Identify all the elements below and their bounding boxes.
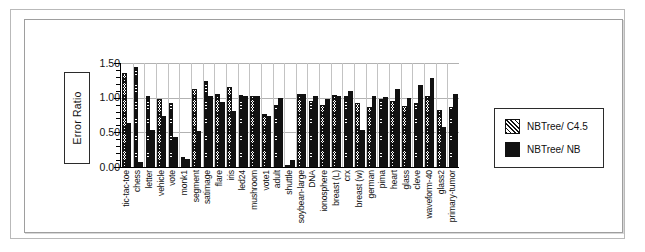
x-axis-label: breast (L) <box>330 169 342 227</box>
legend-label-nbtree-c45: NBTree/ C4.5 <box>527 121 588 132</box>
bar-group <box>249 63 261 167</box>
bar-nb <box>220 102 225 167</box>
bar-nb <box>453 94 458 167</box>
x-axis-label-text: led24 <box>237 170 247 191</box>
bar-group <box>319 63 331 167</box>
x-axis-label: letter <box>143 169 155 227</box>
bar-series-container <box>121 63 459 167</box>
bar-group <box>296 63 308 167</box>
bar-nb <box>348 91 353 167</box>
x-axis-labels: tic-tac-toechesslettervehiclevotemonk1se… <box>120 169 458 227</box>
y-tick-label-3: 1.50 <box>38 57 120 69</box>
bar-nb <box>138 162 143 167</box>
x-axis-label-text: cleve <box>412 170 422 190</box>
bar-chart: Error Ratio 1.50 1.00 0.50 0.00 tic-tac-… <box>28 22 618 228</box>
x-axis-label: satimage <box>202 169 214 227</box>
bar-nb <box>243 96 248 167</box>
x-axis-label: breast (w) <box>353 169 365 227</box>
bar-group <box>377 63 389 167</box>
y-axis: 1.50 1.00 0.50 0.00 <box>28 22 120 168</box>
plot-area <box>120 63 459 168</box>
x-axis-label-text: waveform-40 <box>424 170 434 219</box>
x-axis-label-text: letter <box>144 170 154 189</box>
x-axis-label-text: chess <box>132 170 142 192</box>
x-axis-label: adult <box>272 169 284 227</box>
bar-group <box>226 63 238 167</box>
x-axis-label: mushroom <box>248 169 260 227</box>
bar-nb <box>418 85 423 167</box>
bar-nb <box>127 123 132 167</box>
bar-nb <box>197 131 202 167</box>
bar-nb <box>150 130 155 167</box>
x-axis-label-text: tic-tac-toe <box>121 170 131 207</box>
bar-group <box>331 63 343 167</box>
bar-group <box>308 63 320 167</box>
x-axis-label: vehicle <box>155 169 167 227</box>
legend-swatch-hatched-icon <box>505 119 520 134</box>
bar-nb <box>442 127 447 167</box>
bar-nb <box>395 89 400 167</box>
x-axis-label: led24 <box>237 169 249 227</box>
bar-group <box>273 63 285 167</box>
x-axis-label-text: flare <box>214 170 224 186</box>
bar-group <box>412 63 424 167</box>
x-axis-label: shuttle <box>283 169 295 227</box>
x-axis-label: chess <box>132 169 144 227</box>
bar-nb <box>325 99 330 167</box>
bar-group <box>214 63 226 167</box>
x-axis-label: monk1 <box>178 169 190 227</box>
x-axis-label-text: pima <box>377 170 387 188</box>
x-axis-label-text: glass <box>401 170 411 190</box>
x-axis-label: soybean-large <box>295 169 307 227</box>
x-axis-label: DNA <box>307 169 319 227</box>
y-tick-label-1: 0.50 <box>38 126 120 138</box>
x-axis-label: cleve <box>411 169 423 227</box>
x-axis-label: heart <box>388 169 400 227</box>
x-axis-label: ionosphere <box>318 169 330 227</box>
bar-group <box>203 63 215 167</box>
bar-group <box>238 63 250 167</box>
y-tick-label-0: 0.00 <box>38 161 120 173</box>
x-axis-label-text: german <box>366 170 376 199</box>
x-axis-label-text: vote <box>167 170 177 186</box>
bar-nb <box>173 137 178 167</box>
legend-swatch-solid-icon <box>505 142 520 157</box>
x-axis-label-text: vehicle <box>156 170 166 196</box>
bar-nb <box>313 96 318 167</box>
bar-group <box>354 63 366 167</box>
legend: NBTree/ C4.5 NBTree/ NB <box>494 108 604 168</box>
x-axis-label-text: glass2 <box>436 170 446 194</box>
bar-nb <box>407 98 412 167</box>
x-axis-label-text: adult <box>272 170 282 188</box>
bar-nb <box>185 159 190 167</box>
bar-c45 <box>134 67 139 167</box>
x-axis-label-text: DNA <box>307 170 317 188</box>
x-axis-label-text: satimage <box>202 170 212 204</box>
x-axis-label: glass <box>400 169 412 227</box>
bar-group <box>366 63 378 167</box>
bar-nb <box>383 97 388 167</box>
bar-group <box>261 63 273 167</box>
bar-group <box>179 63 191 167</box>
x-axis-label-text: breast (L) <box>331 170 341 206</box>
bar-nb <box>267 116 272 167</box>
bar-group <box>447 63 459 167</box>
legend-label-nbtree-nb: NBTree/ NB <box>527 144 581 155</box>
bar-nb <box>232 111 237 167</box>
bar-nb <box>337 96 342 167</box>
bar-group <box>342 63 354 167</box>
x-axis-label: vote1 <box>260 169 272 227</box>
x-axis-label-text: breast (w) <box>354 170 364 207</box>
legend-entry-nbtree-nb: NBTree/ NB <box>505 142 581 157</box>
x-axis-label: flare <box>213 169 225 227</box>
x-axis-label-text: primary-tumor <box>447 170 457 222</box>
bar-nb <box>360 130 365 167</box>
bar-nb <box>430 78 435 167</box>
bar-nb <box>208 96 213 167</box>
bar-group <box>121 63 133 167</box>
x-axis-label-text: vote1 <box>261 170 271 191</box>
y-tick-label-2: 1.00 <box>38 91 120 103</box>
bar-group <box>144 63 156 167</box>
bar-nb <box>278 98 283 167</box>
x-axis-label: iris <box>225 169 237 227</box>
